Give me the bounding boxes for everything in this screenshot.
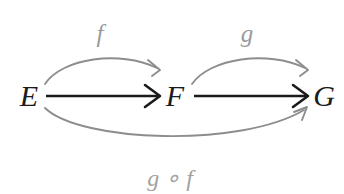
arrow-f-to-g (194, 85, 308, 107)
arrow-g-compose-f-shaft (45, 108, 304, 136)
morphism-label-g: g (241, 20, 254, 47)
arrow-e-to-f (46, 85, 160, 107)
arrow-f-curve-shaft (45, 58, 157, 84)
arrow-g-curve-shaft (192, 58, 305, 84)
arrow-g-curve-head (296, 60, 308, 76)
morphism-label-f: f (97, 20, 107, 47)
arrow-g-curve (192, 58, 308, 84)
arrow-f-curve (45, 58, 160, 84)
object-label-f: F (165, 79, 185, 112)
object-label-g: G (313, 79, 335, 112)
diagram-canvas: E F G f g g ∘ f (0, 0, 344, 194)
arrow-f-curve-head (148, 60, 160, 76)
object-label-e: E (19, 79, 38, 112)
commutative-diagram: E F G f g g ∘ f (0, 0, 344, 194)
morphism-label-g-compose-f: g ∘ f (147, 165, 196, 191)
